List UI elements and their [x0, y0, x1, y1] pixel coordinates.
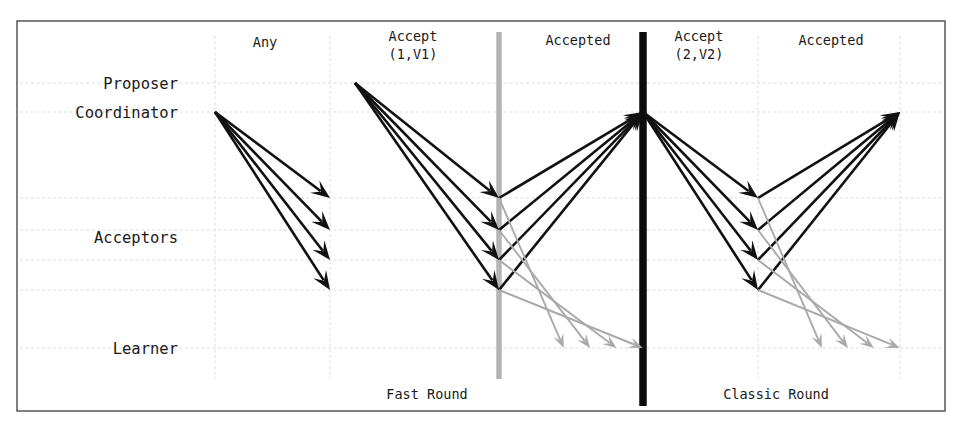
- arrow-shaft: [499, 121, 636, 290]
- arrow-shaft: [758, 120, 891, 230]
- paxos-message-flow-diagram: ProposerCoordinatorAcceptorsLearner AnyA…: [0, 0, 965, 436]
- arrow-shaft: [758, 121, 893, 290]
- message-arrow-light: [499, 230, 590, 348]
- actor-row-labels: ProposerCoordinatorAcceptorsLearner: [75, 75, 178, 358]
- row-label-coordinator: Coordinator: [75, 104, 178, 122]
- arrow-shaft: [758, 290, 892, 345]
- arrow-shaft: [499, 230, 585, 341]
- phase-label-line: (1,V1): [389, 46, 438, 62]
- phase-label-line: Accepted: [545, 32, 610, 48]
- paxos-diagram-root: ProposerCoordinatorAcceptorsLearner AnyA…: [0, 0, 965, 436]
- message-arrow-dark: [758, 112, 900, 290]
- arrow-shaft: [355, 83, 491, 222]
- message-arrow-dark: [758, 112, 900, 230]
- round-label-fast-round: Fast Round: [386, 386, 467, 402]
- message-arrow-dark: [215, 112, 330, 290]
- vertical-gridlines: [215, 36, 900, 379]
- phase-label-line: Accepted: [798, 32, 863, 48]
- arrow-shaft: [499, 290, 635, 345]
- phase-label-accepted-classic: Accepted: [798, 32, 863, 48]
- row-label-proposer: Proposer: [103, 75, 178, 93]
- message-arrow-light: [499, 290, 643, 348]
- arrow-shaft: [499, 260, 610, 343]
- arrow-shaft: [758, 230, 843, 341]
- message-arrow-dark: [355, 83, 499, 260]
- arrow-shaft: [215, 112, 322, 222]
- arrow-shaft: [758, 118, 890, 198]
- arrow-shaft: [643, 112, 752, 280]
- row-label-learner: Learner: [113, 340, 178, 358]
- message-arrow-dark: [355, 83, 499, 290]
- arrow-shaft: [355, 83, 490, 191]
- phase-label-line: Accept: [389, 28, 438, 44]
- message-arrow-dark: [215, 112, 330, 230]
- arrow-shaft: [499, 120, 635, 260]
- arrow-head: [741, 270, 758, 290]
- message-arrow-dark: [643, 112, 758, 230]
- round-labels: Fast RoundClassic Round: [386, 386, 828, 402]
- message-arrow-dark: [499, 112, 643, 230]
- arrow-head: [313, 270, 330, 290]
- arrow-shaft: [499, 118, 633, 198]
- arrow-shaft: [758, 260, 867, 343]
- arrow-shaft: [355, 83, 492, 280]
- arrow-shaft: [215, 112, 324, 280]
- row-label-acceptors: Acceptors: [94, 229, 178, 247]
- round-boundary-bars: [499, 32, 643, 406]
- message-arrow-dark: [355, 83, 499, 198]
- message-arrow-light: [758, 230, 848, 348]
- message-arrows: [215, 83, 900, 348]
- arrow-shaft: [758, 121, 892, 260]
- phase-labels: AnyAccept(1,V1)AcceptedAccept(2,V2)Accep…: [253, 28, 864, 62]
- arrow-shaft: [355, 83, 492, 251]
- arrow-shaft: [643, 112, 750, 222]
- phase-label-line: Any: [253, 34, 277, 50]
- phase-label-line: Accept: [675, 28, 724, 44]
- message-arrow-dark: [355, 83, 499, 230]
- phase-label-any: Any: [253, 34, 277, 50]
- phase-label-accept-2-v2: Accept(2,V2): [675, 28, 724, 62]
- message-arrow-light: [758, 290, 900, 348]
- message-arrow-dark: [499, 112, 643, 290]
- phase-label-accepted-fast: Accepted: [545, 32, 610, 48]
- phase-label-accept-1-v1: Accept(1,V1): [389, 28, 438, 62]
- round-label-classic-round: Classic Round: [723, 386, 829, 402]
- arrow-shaft: [499, 119, 634, 230]
- message-arrow-dark: [643, 112, 758, 290]
- phase-label-line: (2,V2): [675, 46, 724, 62]
